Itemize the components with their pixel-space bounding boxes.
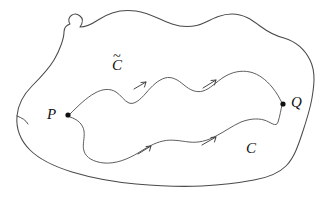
curve-c-label: C xyxy=(246,141,256,156)
point-p-label: P xyxy=(47,107,56,122)
c-tilde-glyph-wrap: ~ C xyxy=(112,58,122,73)
curve-c-tilde xyxy=(70,71,282,114)
point-p-dot xyxy=(65,112,70,117)
tilde-accent-icon: ~ xyxy=(113,49,121,63)
point-q-label: Q xyxy=(291,95,302,110)
arrow-lower-left-icon xyxy=(138,146,151,154)
point-q-dot xyxy=(280,101,285,106)
region-outline-path xyxy=(17,10,314,186)
curve-c-tilde-label: ~ C xyxy=(112,58,122,73)
figure-container: P Q C ~ C xyxy=(0,0,324,201)
path-independence-diagram xyxy=(0,0,324,201)
region-left-notch-detail xyxy=(17,116,28,124)
arrow-upper-left-icon xyxy=(134,82,146,89)
